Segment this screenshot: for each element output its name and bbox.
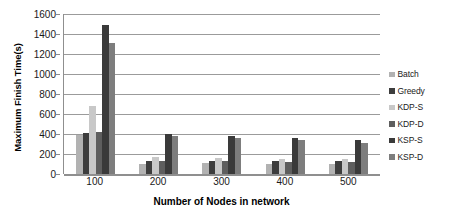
bar-ksp-d-500 bbox=[361, 143, 368, 174]
legend-item-kdp-d[interactable]: KDP-D bbox=[389, 116, 449, 133]
y-axis-tick-1200: 1200 bbox=[34, 49, 56, 60]
y-axis-tick-mark bbox=[56, 174, 60, 175]
chart-legend: BatchGreedyKDP-SKDP-DKSP-SKSP-D bbox=[389, 66, 449, 165]
y-axis-tick-1000: 1000 bbox=[34, 69, 56, 80]
legend-label: KDP-D bbox=[398, 119, 424, 129]
bar-group-400 bbox=[266, 14, 305, 174]
y-axis-tick-mark bbox=[56, 74, 60, 75]
bar-chart: Maximum Finish Time(s) 16001400120010008… bbox=[0, 0, 450, 220]
y-axis-tick-mark bbox=[56, 54, 60, 55]
bar-groups bbox=[64, 14, 380, 174]
y-axis-tick-600: 600 bbox=[39, 109, 56, 120]
legend-label: KDP-S bbox=[398, 102, 423, 112]
y-axis-tick-400: 400 bbox=[39, 129, 56, 140]
y-axis-tick-mark bbox=[56, 34, 60, 35]
y-axis-tick-mark bbox=[56, 134, 60, 135]
bar-group-500 bbox=[329, 14, 368, 174]
legend-label: Greedy bbox=[398, 86, 425, 96]
y-axis-tick-mark bbox=[56, 114, 60, 115]
plot-area bbox=[63, 14, 380, 174]
bar-group-100 bbox=[76, 14, 115, 174]
bar-ksp-d-300 bbox=[235, 138, 242, 174]
legend-swatch-icon bbox=[389, 121, 395, 127]
y-axis-tick-200: 200 bbox=[39, 149, 56, 160]
legend-label: KSP-D bbox=[398, 152, 423, 162]
y-axis-tick-800: 800 bbox=[39, 89, 56, 100]
x-axis-tick-300: 300 bbox=[201, 176, 241, 192]
y-axis-tick-mark bbox=[56, 94, 60, 95]
x-axis-title: Number of Nodes in network bbox=[63, 196, 380, 207]
legend-item-batch[interactable]: Batch bbox=[389, 66, 449, 83]
bar-group-300 bbox=[202, 14, 241, 174]
y-axis-tick-1400: 1400 bbox=[34, 29, 56, 40]
bar-ksp-d-100 bbox=[109, 43, 116, 174]
bar-ksp-d-400 bbox=[298, 140, 305, 174]
y-axis-tick-labels: 16001400120010008006004002000 bbox=[20, 14, 60, 174]
x-axis-tick-500: 500 bbox=[328, 176, 368, 192]
x-axis-tick-labels: 100200300400500 bbox=[63, 176, 380, 192]
legend-swatch-icon bbox=[389, 105, 395, 111]
x-axis-tick-400: 400 bbox=[265, 176, 305, 192]
legend-item-ksp-d[interactable]: KSP-D bbox=[389, 149, 449, 166]
x-axis-tick-100: 100 bbox=[75, 176, 115, 192]
legend-label: Batch bbox=[398, 69, 419, 79]
bar-ksp-d-200 bbox=[172, 136, 179, 175]
legend-item-greedy[interactable]: Greedy bbox=[389, 83, 449, 100]
y-axis-tick-mark bbox=[56, 154, 60, 155]
legend-swatch-icon bbox=[389, 72, 395, 78]
legend-label: KSP-S bbox=[398, 135, 423, 145]
legend-item-kdp-s[interactable]: KDP-S bbox=[389, 99, 449, 116]
legend-swatch-icon bbox=[389, 154, 395, 160]
y-axis-tick-mark bbox=[56, 14, 60, 15]
legend-swatch-icon bbox=[389, 138, 395, 144]
legend-swatch-icon bbox=[389, 88, 395, 94]
x-axis-tick-200: 200 bbox=[138, 176, 178, 192]
legend-item-ksp-s[interactable]: KSP-S bbox=[389, 132, 449, 149]
bar-group-200 bbox=[139, 14, 178, 174]
y-axis-tick-1600: 1600 bbox=[34, 9, 56, 20]
